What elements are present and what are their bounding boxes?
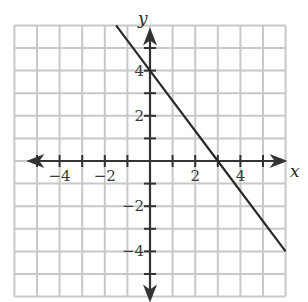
x-tick-label: 4	[236, 167, 246, 185]
y-tick-label: 2	[134, 107, 144, 125]
y-tick-label: −2	[122, 197, 144, 215]
x-tick-label: −4	[49, 167, 71, 185]
x-tick-label: 2	[190, 167, 200, 185]
x-tick-label: −2	[94, 167, 116, 185]
axes	[26, 27, 287, 302]
x-axis-label: x	[290, 161, 300, 181]
y-axis-label: y	[137, 8, 148, 28]
coordinate-plane: −4−224 42−2−4 x y	[0, 0, 308, 302]
y-tick-label: 4	[134, 62, 144, 80]
y-tick-label: −4	[122, 242, 144, 260]
x-tick-labels: −4−224	[49, 167, 246, 185]
